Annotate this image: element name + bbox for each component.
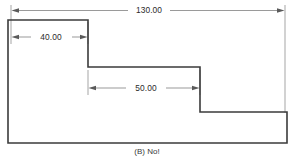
dimensioned-part-drawing: 130.00 40.00 50.00 (B) No! (0, 0, 293, 159)
arrow-head-left-overall (12, 8, 20, 13)
arrow-head-left-40 (12, 35, 20, 40)
arrow-head-right-overall (277, 8, 285, 13)
dimension-first-step-width: 40.00 (12, 32, 88, 42)
arrow-head-left-50 (89, 86, 97, 91)
dimension-second-step-width: 50.00 (89, 83, 200, 93)
figure-caption: (B) No! (134, 147, 159, 156)
dimension-label-first-step-width: 40.00 (40, 32, 62, 42)
figure-screenshot: 130.00 40.00 50.00 (B) No! (0, 0, 293, 159)
dimension-label-overall-width: 130.00 (136, 5, 162, 15)
arrow-head-right-50 (192, 86, 200, 91)
arrow-head-right-40 (80, 35, 88, 40)
dimension-label-second-step-width: 50.00 (135, 83, 157, 93)
dimension-overall-width: 130.00 (12, 5, 285, 15)
